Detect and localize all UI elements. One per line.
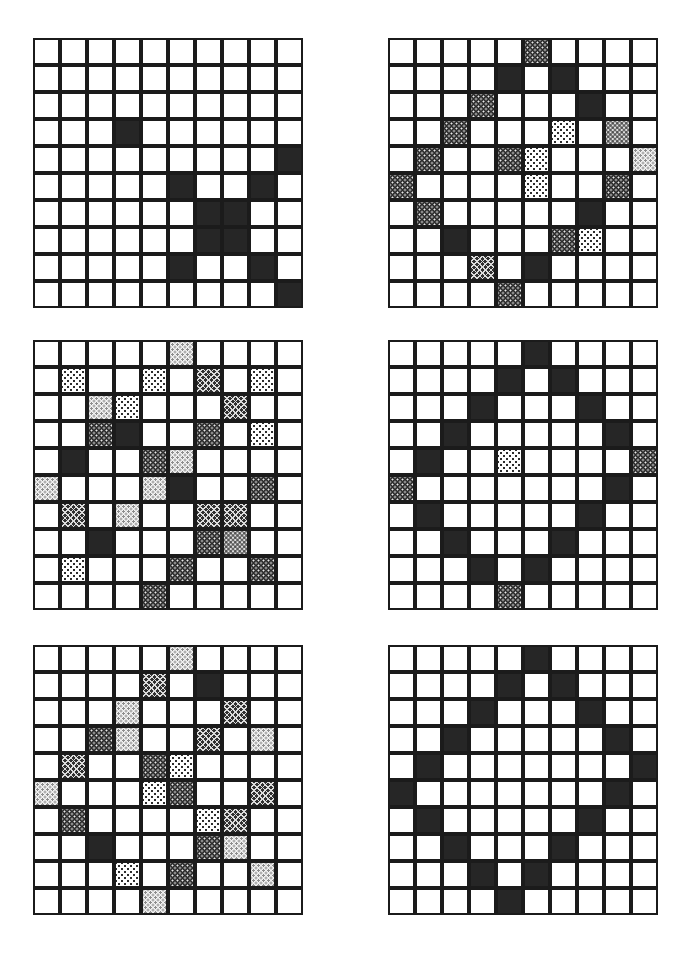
grid-cell-empty bbox=[550, 475, 577, 502]
grid-cell-filled bbox=[141, 475, 168, 502]
grid-cell-empty bbox=[33, 888, 60, 915]
grid-cell-empty bbox=[469, 645, 496, 672]
grid-cell-empty bbox=[415, 119, 442, 146]
grid-cell-empty bbox=[249, 38, 276, 65]
grid-cell-filled bbox=[249, 780, 276, 807]
grid-cell-empty bbox=[60, 861, 87, 888]
grid-cell-empty bbox=[222, 119, 249, 146]
grid-cell-empty bbox=[222, 281, 249, 308]
grid-cell-empty bbox=[388, 834, 415, 861]
grid-cell-empty bbox=[388, 38, 415, 65]
grid-cell-empty bbox=[631, 200, 658, 227]
grid-cell-empty bbox=[249, 394, 276, 421]
grid-cell-empty bbox=[631, 119, 658, 146]
grid-cell-empty bbox=[33, 699, 60, 726]
grid-cell-filled bbox=[496, 367, 523, 394]
grid-cell-empty bbox=[496, 227, 523, 254]
grid-cell-empty bbox=[469, 475, 496, 502]
grid-cell-empty bbox=[168, 699, 195, 726]
grid-cell-empty bbox=[276, 502, 303, 529]
grid-cell-filled bbox=[631, 753, 658, 780]
grid-cell-empty bbox=[33, 367, 60, 394]
grid-cell-empty bbox=[87, 502, 114, 529]
grid-cell-empty bbox=[388, 645, 415, 672]
grid-cell-empty bbox=[550, 38, 577, 65]
grid-cell-empty bbox=[388, 448, 415, 475]
grid-cell-filled bbox=[195, 672, 222, 699]
grid-cell-empty bbox=[249, 146, 276, 173]
grid-cell-empty bbox=[168, 200, 195, 227]
grid-cell-filled bbox=[550, 227, 577, 254]
grid-cell-empty bbox=[577, 726, 604, 753]
grid-cell-empty bbox=[577, 753, 604, 780]
grid-cell-filled bbox=[60, 556, 87, 583]
grid-cell-empty bbox=[604, 254, 631, 281]
grid-cell-empty bbox=[388, 583, 415, 610]
grid-cell-empty bbox=[469, 753, 496, 780]
grid-cell-empty bbox=[87, 645, 114, 672]
grid-cell-empty bbox=[114, 780, 141, 807]
grid-cell-empty bbox=[168, 394, 195, 421]
grid-cell-empty bbox=[60, 529, 87, 556]
grid-cell-empty bbox=[222, 421, 249, 448]
grid-cell-empty bbox=[469, 119, 496, 146]
grid-cell-empty bbox=[141, 92, 168, 119]
grid-cell-filled bbox=[442, 834, 469, 861]
grid-cell-empty bbox=[388, 753, 415, 780]
grid-cell-empty bbox=[604, 200, 631, 227]
grid-cell-filled bbox=[33, 475, 60, 502]
grid-cell-filled bbox=[604, 726, 631, 753]
grid-cell-filled bbox=[577, 200, 604, 227]
grid-cell-empty bbox=[33, 645, 60, 672]
grid-cell-filled bbox=[114, 394, 141, 421]
grid-cell-empty bbox=[276, 475, 303, 502]
panel-top-right bbox=[388, 38, 658, 308]
grid-cell-empty bbox=[249, 699, 276, 726]
grid-cell-filled bbox=[442, 726, 469, 753]
grid-cell-empty bbox=[442, 753, 469, 780]
grid-cell-filled bbox=[168, 753, 195, 780]
grid-cell-empty bbox=[141, 556, 168, 583]
grid-cell-empty bbox=[604, 888, 631, 915]
grid-cell-empty bbox=[469, 340, 496, 367]
grid-cell-empty bbox=[523, 726, 550, 753]
grid-cell-empty bbox=[469, 672, 496, 699]
grid-cell-empty bbox=[168, 92, 195, 119]
grid-cell-empty bbox=[87, 65, 114, 92]
grid-cell-filled bbox=[168, 173, 195, 200]
grid-cell-empty bbox=[415, 227, 442, 254]
grid-cell-empty bbox=[249, 583, 276, 610]
grid-cell-empty bbox=[496, 340, 523, 367]
grid-cell-filled bbox=[114, 699, 141, 726]
grid-cell-filled bbox=[195, 834, 222, 861]
grid-cell-empty bbox=[523, 119, 550, 146]
grid-cell-empty bbox=[33, 861, 60, 888]
grid-cell-empty bbox=[577, 281, 604, 308]
grid-cell-empty bbox=[33, 200, 60, 227]
grid-cell-empty bbox=[631, 173, 658, 200]
grid-cell-empty bbox=[276, 583, 303, 610]
grid-cell-empty bbox=[577, 254, 604, 281]
grid-cell-empty bbox=[415, 92, 442, 119]
grid-cell-empty bbox=[496, 38, 523, 65]
grid-cell-filled bbox=[523, 173, 550, 200]
grid-cell-filled bbox=[415, 807, 442, 834]
grid-cell-empty bbox=[523, 888, 550, 915]
grid-cell-empty bbox=[276, 529, 303, 556]
grid-cell-empty bbox=[550, 200, 577, 227]
grid-cell-filled bbox=[87, 834, 114, 861]
grid-cell-filled bbox=[523, 556, 550, 583]
grid-cell-empty bbox=[87, 119, 114, 146]
grid-cell-empty bbox=[388, 421, 415, 448]
grid-cell-empty bbox=[388, 92, 415, 119]
grid-cell-empty bbox=[222, 92, 249, 119]
grid-cell-empty bbox=[276, 340, 303, 367]
grid-cell-empty bbox=[141, 38, 168, 65]
grid-cell-empty bbox=[496, 834, 523, 861]
grid-cell-empty bbox=[195, 394, 222, 421]
grid-cell-empty bbox=[604, 807, 631, 834]
grid-cell-filled bbox=[388, 173, 415, 200]
grid-cell-empty bbox=[442, 146, 469, 173]
grid-cell-filled bbox=[222, 394, 249, 421]
grid-cell-empty bbox=[276, 780, 303, 807]
